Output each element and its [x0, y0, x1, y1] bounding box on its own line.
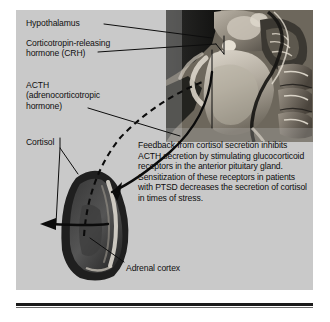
- bottom-rule-shadow: [16, 307, 313, 308]
- bottom-rule: [16, 303, 313, 306]
- label-corticotropin-releasing-hormone: Corticotropin-releasing hormone (CRH): [26, 38, 110, 59]
- label-cortisol: Cortisol: [26, 137, 54, 147]
- figure-root: Hypothalamus Corticotropin-releasing hor…: [0, 0, 330, 322]
- illustration-panel: Hypothalamus Corticotropin-releasing hor…: [16, 10, 313, 290]
- label-acth: ACTH (adrenocorticotropic hormone): [26, 80, 100, 111]
- label-hypothalamus: Hypothalamus: [26, 18, 80, 28]
- cervical-vertebrae: [278, 64, 312, 139]
- cortisol-bracket-left: [56, 148, 60, 224]
- sagittal-head-photograph: [166, 10, 313, 142]
- label-adrenal-cortex: Adrenal cortex: [126, 263, 180, 273]
- feedback-paragraph: Feedback from cortisol secretion inhibit…: [138, 140, 310, 204]
- cortisol-bracket-right: [60, 138, 78, 174]
